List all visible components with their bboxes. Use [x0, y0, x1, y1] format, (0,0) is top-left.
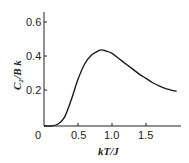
x-axis-label: kT/J [98, 145, 119, 157]
x-tick-label: 0 [35, 129, 41, 141]
y-tick-label: 0.6 [26, 16, 41, 28]
x-tick-label: 0.5 [71, 129, 86, 141]
y-tick-label: 0.4 [26, 50, 41, 62]
x-tick-label: 1.5 [138, 129, 153, 141]
data-curve [44, 50, 177, 126]
specific-heat-chart: 0.6 0.4 0.2 0 0.5 1.0 1.5 kT/J C₂/B k [0, 0, 189, 163]
x-tick-label: 1.0 [104, 129, 119, 141]
y-tick-label: 0.2 [26, 84, 41, 96]
y-axis-label: C₂/B k [11, 60, 23, 90]
